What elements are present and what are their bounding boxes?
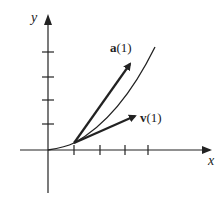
y-axis-arrow-icon bbox=[44, 14, 52, 25]
velocity-label-arg: (1) bbox=[147, 110, 162, 125]
velocity-label: v(1) bbox=[140, 110, 162, 125]
trajectory-curve bbox=[48, 47, 155, 150]
x-axis-label: x bbox=[207, 153, 215, 168]
y-axis bbox=[44, 14, 52, 193]
acceleration-label-arg: (1) bbox=[117, 40, 132, 55]
acceleration-label: a(1) bbox=[110, 40, 132, 55]
diagram-canvas: y x a(1) v(1) bbox=[0, 0, 224, 197]
y-axis-label: y bbox=[29, 10, 38, 25]
